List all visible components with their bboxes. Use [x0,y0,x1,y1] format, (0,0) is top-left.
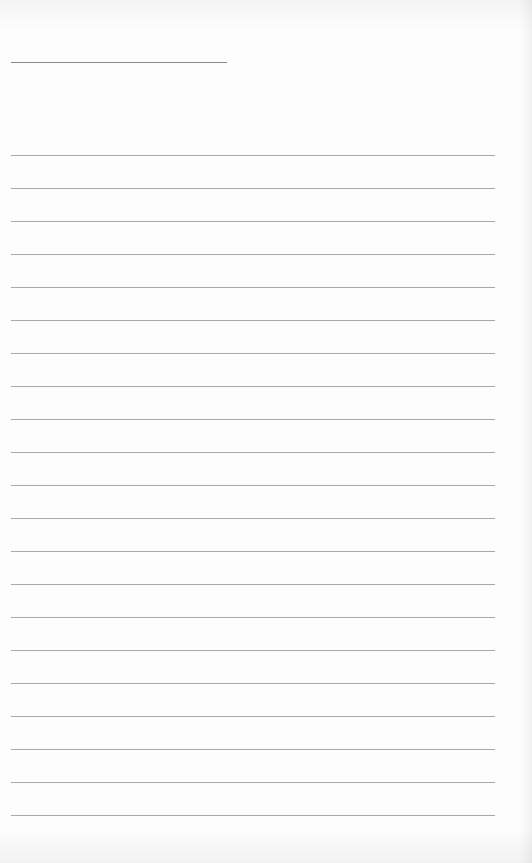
ruled-line [11,386,495,387]
header-rule-line [11,62,227,63]
ruled-line [11,485,495,486]
ruled-line [11,518,495,519]
ruled-line [11,353,495,354]
ruled-line [11,683,495,684]
ruled-line [11,155,495,156]
ruled-line [11,815,495,816]
ruled-line [11,452,495,453]
lined-paper-page [0,0,532,863]
ruled-line [11,419,495,420]
ruled-line [11,287,495,288]
ruled-line [11,254,495,255]
ruled-line [11,650,495,651]
ruled-line [11,188,495,189]
ruled-line [11,716,495,717]
ruled-line [11,320,495,321]
ruled-line [11,782,495,783]
ruled-line [11,749,495,750]
ruled-line [11,221,495,222]
ruled-line [11,584,495,585]
page-edge-shadow [520,0,532,863]
ruled-line [11,551,495,552]
ruled-line [11,617,495,618]
